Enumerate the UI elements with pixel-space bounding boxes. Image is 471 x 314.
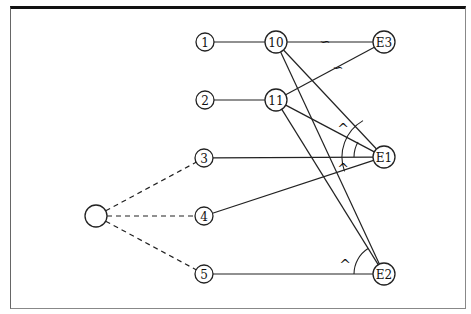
node-E3: E3 [373,31,395,53]
edges [106,42,380,274]
node-label: 4 [200,210,208,224]
graph-diagram: 123451011E3E1E2 ∽∽^^^ [0,0,471,314]
node-source [85,205,107,227]
node-1: 1 [196,33,214,51]
node-label: E2 [376,268,392,282]
angle-arc [354,142,358,157]
tilde-marker: ∽ [333,60,344,75]
caret-marker: ^ [337,121,349,137]
node-circle [85,205,107,227]
caret-marker: ^ [339,257,351,273]
node-E2: E2 [373,263,395,285]
angle-arc [354,249,368,274]
node-label: E1 [376,151,392,165]
node-label: 3 [200,152,208,166]
node-3: 3 [195,149,213,167]
caret-marker: ^ [337,161,349,177]
edge-n11-E2 [282,109,378,264]
node-label: 5 [200,268,208,282]
edge-src-n3 [106,162,196,211]
edge-src-n5 [106,221,196,270]
edge-n11-E1 [286,105,375,152]
node-10: 10 [265,31,287,53]
edge-n11-E3 [286,47,375,95]
node-2: 2 [196,91,214,109]
node-E1: E1 [373,146,395,168]
edge-n3-E1 [213,157,373,158]
node-label: 2 [201,94,209,108]
markers: ∽∽^^^ [320,34,351,273]
edge-n4-E1 [213,160,374,213]
node-11: 11 [265,89,287,111]
angle-arcs [342,121,368,274]
node-label: 10 [268,36,283,50]
node-4: 4 [195,207,213,225]
tilde-marker: ∽ [320,34,331,49]
node-5: 5 [195,265,213,283]
node-label: 11 [268,94,283,108]
node-label: E3 [376,36,392,50]
node-label: 1 [201,36,209,50]
